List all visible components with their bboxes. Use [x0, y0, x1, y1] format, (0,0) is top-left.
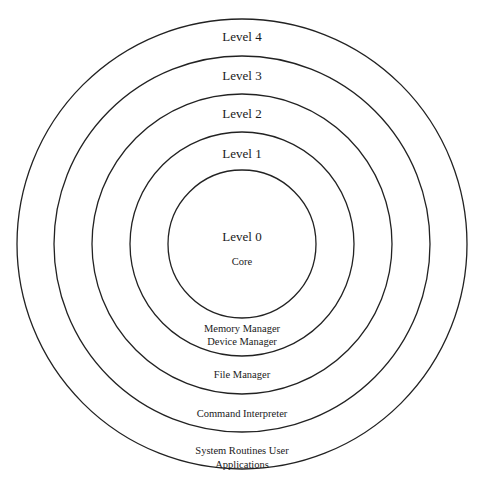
level-1-label: Level 1 — [222, 146, 261, 161]
level-3-label: Level 3 — [222, 68, 261, 83]
memory-manager-label: Memory Manager — [204, 323, 281, 334]
system-routines-label: System Routines User — [195, 445, 289, 456]
core-label: Core — [232, 256, 253, 267]
level-2-label: Level 2 — [222, 106, 261, 121]
level-4-label: Level 4 — [222, 29, 262, 44]
device-manager-label: Device Manager — [207, 336, 277, 347]
applications-label: Applications — [215, 459, 269, 470]
command-interpreter-label: Command Interpreter — [197, 408, 288, 419]
file-manager-label: File Manager — [214, 369, 271, 380]
level-0-label: Level 0 — [222, 229, 261, 244]
layered-os-diagram: Level 4 Level 3 Level 2 Level 1 Level 0 … — [0, 0, 481, 489]
